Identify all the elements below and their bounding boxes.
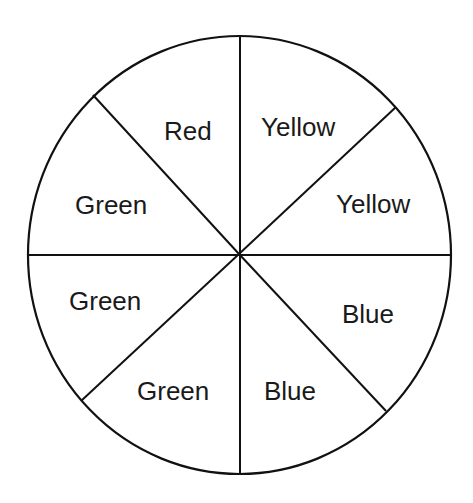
spinner-diagram: Red Yellow Green Yellow Green Blue Green… bbox=[0, 0, 473, 503]
section-label-yellow-lower: Yellow bbox=[336, 189, 410, 219]
section-label-green-bottom: Green bbox=[137, 376, 209, 406]
section-label-yellow-upper: Yellow bbox=[261, 112, 335, 142]
section-label-green-top-left: Green bbox=[75, 190, 147, 220]
section-label-red: Red bbox=[164, 116, 212, 146]
section-label-blue-bottom: Blue bbox=[264, 376, 316, 406]
section-label-blue-right: Blue bbox=[342, 299, 394, 329]
section-label-green-bottom-left-upper: Green bbox=[69, 286, 141, 316]
